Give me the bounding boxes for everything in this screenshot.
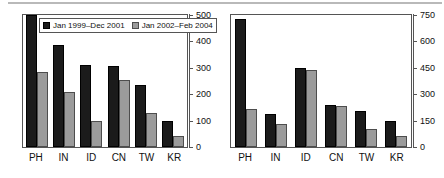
y-tick-right-300	[413, 94, 417, 95]
chart-panels: Jan 1999–Dec 2001 Jan 2002–Feb 2004 0100…	[0, 8, 444, 178]
bar-group-tw-left	[132, 15, 159, 147]
y-tick-label-right-300: 300	[420, 90, 435, 99]
bar-id-series-1	[91, 121, 102, 147]
bar-groups-right	[231, 15, 411, 147]
y-tick-label-left-300: 300	[196, 63, 211, 72]
legend-swatch-icon-series-1	[132, 22, 139, 29]
x-tick-label-ph-left: PH	[22, 152, 50, 164]
bar-ph-series-1	[246, 109, 257, 147]
chart-legend: Jan 1999–Dec 2001 Jan 2002–Feb 2004	[39, 18, 217, 33]
bar-group-id-left	[78, 15, 105, 147]
bar-group-ph-right	[231, 15, 261, 147]
legend-item-1: Jan 2002–Feb 2004	[132, 21, 213, 30]
y-tick-left-300	[189, 68, 193, 69]
bar-id-series-0	[80, 65, 91, 147]
y-tick-label-right-0: 0	[420, 143, 425, 152]
chart-panel-left: Jan 1999–Dec 2001 Jan 2002–Feb 2004 0100…	[0, 8, 222, 178]
bar-cn-series-0	[325, 105, 336, 147]
bar-kr-series-1	[173, 136, 184, 147]
bar-kr-series-0	[162, 121, 173, 147]
y-tick-label-left-400: 400	[196, 37, 211, 46]
x-axis-labels-left: PHINIDCNTWKR	[22, 152, 188, 168]
bar-group-cn-left	[105, 15, 132, 147]
x-tick-label-tw-right: TW	[351, 152, 381, 164]
y-axis-left: 0100200300400500	[189, 14, 223, 148]
bar-in-series-0	[53, 45, 64, 147]
x-tick-label-kr-left: KR	[160, 152, 188, 164]
chart-panel-right: 0150300450600750 PHINIDCNTWKR	[222, 8, 444, 178]
y-tick-label-right-150: 150	[420, 116, 435, 125]
x-axis-labels-right: PHINIDCNTWKR	[230, 152, 412, 168]
bar-group-kr-right	[381, 15, 411, 147]
legend-item-0: Jan 1999–Dec 2001	[43, 21, 125, 30]
x-tick-label-in-left: IN	[50, 152, 78, 164]
bar-cn-series-0	[108, 66, 119, 147]
plot-area-right	[231, 15, 411, 147]
plot-area-left	[23, 15, 187, 147]
bar-ph-series-0	[26, 15, 37, 147]
legend-label-series-0: Jan 1999–Dec 2001	[53, 21, 125, 30]
bar-group-in-left	[50, 15, 77, 147]
bar-tw-series-0	[355, 111, 366, 147]
y-tick-label-right-450: 450	[420, 63, 435, 72]
bar-ph-series-0	[235, 19, 246, 147]
x-tick-label-in-right: IN	[260, 152, 290, 164]
bar-group-cn-right	[321, 15, 351, 147]
bar-id-series-0	[295, 68, 306, 147]
y-tick-right-600	[413, 41, 417, 42]
y-tick-label-left-200: 200	[196, 90, 211, 99]
legend-label-series-1: Jan 2002–Feb 2004	[142, 21, 213, 30]
bar-kr-series-1	[396, 136, 407, 147]
y-tick-label-right-750: 750	[420, 11, 435, 20]
bar-in-series-1	[276, 124, 287, 147]
y-tick-right-150	[413, 121, 417, 122]
legend-swatch-icon-series-0	[43, 22, 50, 29]
y-tick-right-450	[413, 68, 417, 69]
bar-group-ph-left	[23, 15, 50, 147]
x-tick-label-id-right: ID	[291, 152, 321, 164]
x-tick-label-tw-left: TW	[133, 152, 161, 164]
bar-in-series-0	[265, 114, 276, 147]
plot-frame-left: Jan 1999–Dec 2001 Jan 2002–Feb 2004	[22, 14, 188, 148]
bar-group-in-right	[261, 15, 291, 147]
bar-kr-series-0	[385, 121, 396, 147]
bar-cn-series-1	[336, 106, 347, 147]
x-tick-label-ph-right: PH	[230, 152, 260, 164]
plot-frame-right	[230, 14, 412, 148]
y-tick-left-400	[189, 41, 193, 42]
bar-group-id-right	[291, 15, 321, 147]
y-tick-left-200	[189, 94, 193, 95]
bar-tw-series-1	[366, 129, 377, 147]
y-tick-label-left-0: 0	[196, 143, 201, 152]
bar-groups-left	[23, 15, 187, 147]
y-tick-right-750	[413, 15, 417, 16]
y-axis-line-left	[189, 14, 190, 148]
y-axis-right: 0150300450600750	[413, 14, 444, 148]
y-tick-label-right-600: 600	[420, 37, 435, 46]
x-tick-label-cn-right: CN	[321, 152, 351, 164]
bar-group-tw-right	[351, 15, 381, 147]
bar-id-series-1	[306, 70, 317, 147]
scan-artifact-line	[8, 2, 442, 4]
bar-in-series-1	[64, 92, 75, 147]
bar-tw-series-0	[135, 85, 146, 147]
y-axis-line-right	[413, 14, 414, 148]
x-tick-label-cn-left: CN	[105, 152, 133, 164]
y-tick-left-0	[189, 147, 193, 148]
bar-tw-series-1	[146, 113, 157, 147]
y-tick-left-500	[189, 15, 193, 16]
y-tick-right-0	[413, 147, 417, 148]
y-tick-label-left-100: 100	[196, 116, 211, 125]
y-tick-left-100	[189, 121, 193, 122]
bar-ph-series-1	[37, 72, 48, 147]
bar-cn-series-1	[119, 80, 130, 147]
x-tick-label-id-left: ID	[77, 152, 105, 164]
bar-group-kr-left	[160, 15, 187, 147]
x-tick-label-kr-right: KR	[382, 152, 412, 164]
